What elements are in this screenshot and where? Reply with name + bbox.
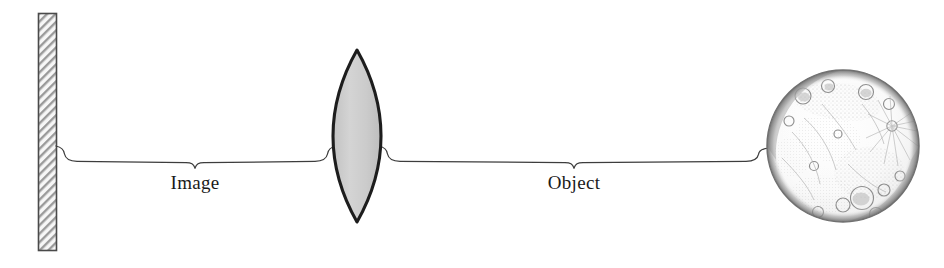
screen-panel xyxy=(39,14,57,251)
image-brace-right-half xyxy=(195,146,336,168)
image-label: Image xyxy=(171,172,220,193)
lens-body xyxy=(333,50,381,222)
optics-diagram-canvas: Image Object xyxy=(0,0,944,268)
image-distance-brace xyxy=(56,146,336,168)
image-brace-left-half xyxy=(56,146,195,168)
moon-limb-gradient xyxy=(767,70,919,222)
moon-object xyxy=(767,70,922,222)
image-screen xyxy=(39,14,57,251)
object-brace-right-half xyxy=(574,148,769,168)
optics-diagram: Image Object xyxy=(0,0,944,268)
object-label: Object xyxy=(548,172,601,193)
object-distance-brace xyxy=(379,146,769,168)
convex-lens xyxy=(333,50,381,222)
object-brace-left-half xyxy=(379,146,574,168)
